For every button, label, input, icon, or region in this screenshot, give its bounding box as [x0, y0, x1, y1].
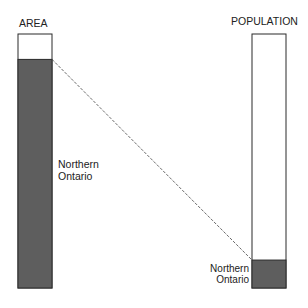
population-title: POPULATION: [231, 15, 298, 27]
population-bar-northern-ontario: [252, 260, 286, 288]
area-segment-label-line2: Ontario: [58, 170, 93, 182]
pop-segment-label-line1: Northern: [210, 263, 249, 274]
pop-segment-label-line2: Ontario: [216, 274, 249, 285]
area-title: AREA: [19, 17, 48, 29]
area-bar-northern-ontario: [18, 59, 52, 288]
area-segment-label-line1: Northern: [58, 158, 99, 170]
population-bar-rest-of-ontario: [252, 34, 286, 288]
area-population-diagram: AREA POPULATION Northern Ontario Norther…: [0, 0, 308, 308]
